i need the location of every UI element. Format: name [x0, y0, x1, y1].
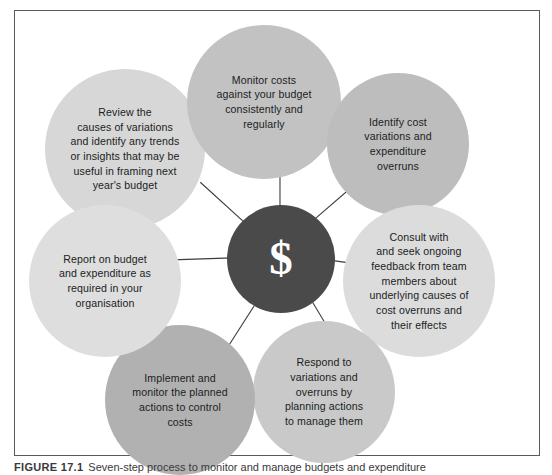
node-label-consult-and-seek-feedback: Consult with and seek ongoing feedback f… — [363, 230, 474, 332]
hub-dollar-circle[interactable]: $ — [227, 205, 335, 313]
node-identify-cost-variations[interactable]: Identify cost variations and expenditure… — [327, 73, 469, 215]
connector-line-report-on-budget — [172, 258, 232, 260]
connector-line-review-causes-of-variations — [200, 182, 244, 222]
node-label-report-on-budget: Report on budget and expenditure as requ… — [53, 252, 157, 310]
figure-caption-text: Seven-step process to monitor and manage… — [88, 461, 426, 473]
figure-frame: Review the causes of variations and iden… — [14, 10, 540, 456]
node-respond-to-variations[interactable]: Respond to variations and overruns by pl… — [253, 321, 395, 463]
node-label-implement-and-monitor-actions: Implement and monitor the planned action… — [126, 371, 234, 429]
radial-diagram: Review the causes of variations and iden… — [15, 11, 539, 455]
figure-caption: FIGURE 17.1Seven-step process to monitor… — [14, 461, 544, 473]
node-report-on-budget[interactable]: Report on budget and expenditure as requ… — [29, 205, 181, 357]
figure-caption-tag: FIGURE 17.1 — [14, 461, 83, 473]
node-label-monitor-costs: Monitor costs against your budget consis… — [211, 73, 318, 131]
node-monitor-costs[interactable]: Monitor costs against your budget consis… — [187, 25, 341, 179]
node-label-respond-to-variations: Respond to variations and overruns by pl… — [279, 355, 369, 428]
node-label-review-causes-of-variations: Review the causes of variations and iden… — [65, 105, 186, 193]
node-review-causes-of-variations[interactable]: Review the causes of variations and iden… — [45, 69, 205, 229]
node-label-identify-cost-variations: Identify cost variations and expenditure… — [358, 115, 437, 173]
dollar-sign-icon: $ — [269, 235, 293, 282]
connector-line-implement-and-monitor-actions — [226, 300, 258, 350]
